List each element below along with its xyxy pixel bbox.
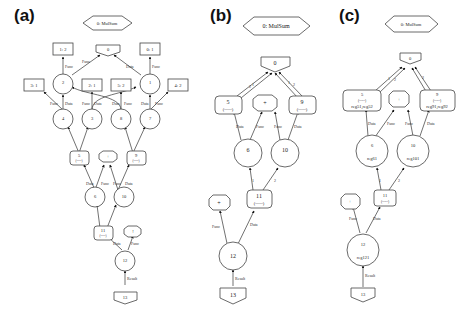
svg-text:1: 1 <box>252 178 254 183</box>
node-6-b: 6 <box>234 139 262 167</box>
svg-text:12: 12 <box>230 253 236 259</box>
node-5-a: 5 (-----) <box>70 151 89 165</box>
node-10-a: 10 <box>114 187 134 207</box>
node-11-c: 11 (-----) <box>374 190 396 206</box>
node-5-2-a: 5: 2 <box>111 79 131 91</box>
svg-text:(-----): (-----) <box>297 107 308 112</box>
svg-text:2: 2 <box>62 80 64 85</box>
node-10-b: 10 <box>271 139 299 167</box>
svg-text:10: 10 <box>411 143 416 148</box>
node-plus-c: + <box>389 91 409 107</box>
node-13-b: 13 <box>220 288 246 304</box>
svg-text:Data: Data <box>125 181 133 186</box>
node-11-a: 11 (-----) <box>94 226 113 240</box>
svg-text:1: 2: 1: 2 <box>60 47 67 52</box>
svg-text:2: 2 <box>249 84 251 89</box>
svg-text:1: 1 <box>252 82 254 87</box>
svg-text:Func: Func <box>152 64 160 69</box>
svg-text:Func: Func <box>212 224 220 229</box>
svg-text:3: 1: 3: 1 <box>31 83 38 88</box>
svg-text:6: 6 <box>247 147 250 153</box>
node-12-b: 12 <box>219 242 247 270</box>
svg-text:(-----): (-----) <box>133 159 140 163</box>
panel-c-graph: 0: MulSum 1 2 2 Data Func Func Data 1 <box>341 16 455 302</box>
svg-text:Func: Func <box>50 101 58 106</box>
node-13-c: 13 <box>351 288 375 302</box>
node-0-a: 0 <box>96 45 120 56</box>
svg-text:+: + <box>107 154 110 159</box>
node-1-a: 1 <box>140 74 160 94</box>
svg-text:13: 13 <box>123 295 128 300</box>
svg-text:9: 9 <box>301 99 304 105</box>
node-0-c: 0 <box>400 53 421 64</box>
node-4-a: 4 <box>53 109 73 129</box>
svg-text:Func: Func <box>65 64 73 69</box>
svg-text:Func: Func <box>274 124 282 129</box>
svg-text:Data: Data <box>250 222 258 227</box>
node-12-a: 12 <box>115 251 135 271</box>
panel-a-graph: 0: MulSum <box>24 16 188 304</box>
svg-text:2: 1: 2: 1 <box>89 83 96 88</box>
svg-text:Data: Data <box>427 121 435 126</box>
node-9-b: 9 (-----) <box>289 96 316 114</box>
svg-text:(-----): (-----) <box>76 159 83 163</box>
node-8-a: 8 <box>111 109 131 129</box>
svg-text:12: 12 <box>361 242 366 247</box>
svg-text:Func: Func <box>82 59 90 64</box>
svg-text:12: 12 <box>123 258 128 263</box>
svg-text:Func: Func <box>256 124 264 129</box>
svg-text:2: 2 <box>394 77 396 82</box>
node-4-2-a: 4: 2 <box>168 79 188 91</box>
svg-text:reg101: reg101 <box>407 156 420 161</box>
title-node-a: 0: MulSum <box>83 16 132 30</box>
node-plus2-c: + <box>341 194 360 209</box>
svg-text:Func: Func <box>131 241 139 246</box>
svg-text:1: 1 <box>288 80 290 85</box>
svg-text:reg61: reg61 <box>367 156 377 161</box>
svg-text:Data: Data <box>141 101 149 106</box>
node-2-1-a: 2: 1 <box>82 79 102 91</box>
svg-text:Data: Data <box>368 121 376 126</box>
svg-text:2: 2 <box>398 178 400 183</box>
node-11-b: 11 (-----) <box>247 190 272 208</box>
node-plus-a: + <box>99 151 117 162</box>
svg-text:Result: Result <box>127 276 138 281</box>
svg-text:0: 0 <box>274 60 277 66</box>
node-6-a: 6 <box>85 187 105 207</box>
svg-text:Data: Data <box>373 216 381 221</box>
svg-text:11: 11 <box>101 228 105 233</box>
svg-text:Result: Result <box>235 276 246 281</box>
node-plus-b: + <box>253 95 277 111</box>
svg-text:Result: Result <box>365 273 376 278</box>
svg-text:2: 2 <box>293 82 295 87</box>
node-9-a: 9 (-----) <box>127 151 146 165</box>
panel-b-graph: 0: MulSum 2 1 1 2 Data Func Func Data <box>209 17 316 304</box>
node-10-c: 10 reg101 <box>397 135 429 167</box>
svg-text:Func: Func <box>82 101 90 106</box>
node-5-b: 5 (-----) <box>215 96 242 114</box>
node-2-a: 2 <box>53 74 73 94</box>
svg-text:Func: Func <box>405 121 413 126</box>
svg-text:0: MulSum: 0: MulSum <box>97 21 118 26</box>
svg-text:(-----): (-----) <box>223 107 234 112</box>
svg-text:Func: Func <box>101 181 109 186</box>
node-plus2-b: + <box>209 195 230 210</box>
svg-text:Data: Data <box>86 181 94 186</box>
svg-text:(-----): (-----) <box>381 200 390 204</box>
svg-text:Data: Data <box>94 101 102 106</box>
svg-text:11: 11 <box>256 193 262 199</box>
node-bang-a: ! <box>124 226 141 237</box>
node-5-c: 5 (-----) reg51,reg52 <box>343 90 381 111</box>
svg-text:2: 2 <box>274 178 276 183</box>
svg-text:(-----): (-----) <box>358 99 367 103</box>
svg-text:0: MulSum: 0: MulSum <box>401 22 422 27</box>
svg-text:Func: Func <box>155 101 163 106</box>
svg-text:13: 13 <box>230 292 236 298</box>
svg-text:reg121: reg121 <box>357 255 370 260</box>
svg-text:(-----): (-----) <box>433 99 442 103</box>
svg-text:(-----): (-----) <box>100 234 107 238</box>
svg-text:+: + <box>349 199 352 204</box>
node-3-1-a: 3: 1 <box>24 79 44 91</box>
svg-text:10: 10 <box>122 194 127 199</box>
svg-text:Data: Data <box>65 101 73 106</box>
